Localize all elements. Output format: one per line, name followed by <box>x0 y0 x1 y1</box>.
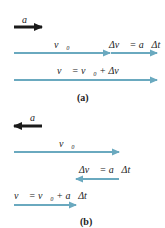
panel-b-v-label: v⃗ = v⃗₀ + a⃗Δt <box>14 191 87 201</box>
panel-a-delta-v-label: Δv⃗ = a⃗Δt <box>109 40 160 50</box>
panel-b-delta-v-label: Δv⃗ = a⃗Δt <box>79 165 130 175</box>
panel-a-v-label: v⃗ = v⃗₀ + Δv⃗ <box>57 66 127 76</box>
panel-b-caption: (b) <box>80 217 92 227</box>
panel-a-acceleration-label: a⃗ <box>22 15 35 25</box>
panel-b-acceleration-label: a⃗ <box>30 113 43 123</box>
panel-a-v0-label: v⃗₀ <box>54 40 70 50</box>
panel-a-caption: (a) <box>77 93 89 103</box>
panel-b-v0-label: v⃗₀ <box>59 139 75 149</box>
